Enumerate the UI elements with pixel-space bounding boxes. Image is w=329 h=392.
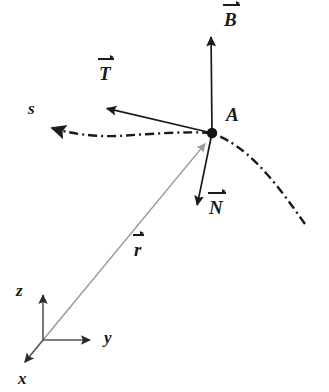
vector-r-shaft	[43, 144, 205, 340]
point-a-label: A	[226, 105, 239, 124]
vector-t-label-text: T	[99, 64, 111, 83]
frenet-frame-diagram: B T N r A s z y x	[0, 0, 329, 392]
vector-b-label: B	[224, 10, 237, 29]
vector-n-label: N	[209, 198, 223, 217]
vector-r-label-text: r	[134, 240, 141, 259]
vector-t-label: T	[99, 64, 111, 83]
vector-b-shaft	[211, 37, 212, 133]
vector-r-label: r	[134, 240, 141, 259]
point-a-marker	[207, 128, 217, 138]
vector-b-label-text: B	[224, 10, 237, 29]
axis-x-label: x	[18, 370, 27, 387]
axis-x-shaft	[25, 340, 43, 362]
diagram-canvas	[0, 0, 329, 392]
curve-s-label: s	[28, 100, 35, 117]
axis-z-label: z	[16, 282, 23, 299]
axis-y-label: y	[104, 329, 112, 346]
vector-n-label-text: N	[209, 198, 223, 217]
vector-t-shaft	[107, 108, 212, 133]
